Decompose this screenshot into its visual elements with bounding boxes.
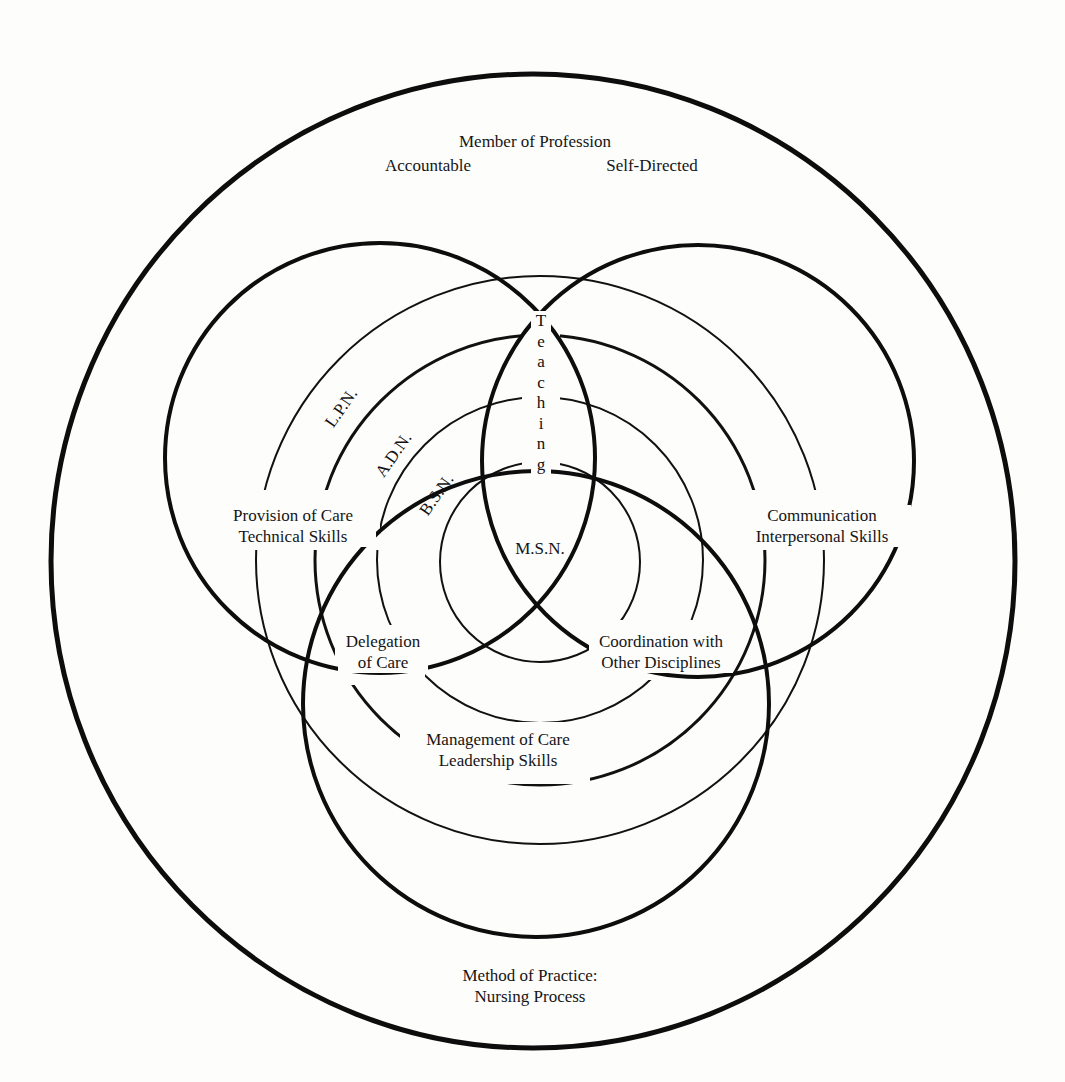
- management-of-care-label: Management of Care Leadership Skills: [415, 729, 581, 771]
- teaching-letter: h: [531, 393, 551, 414]
- method-of-practice-line2: Nursing Process: [430, 986, 630, 1007]
- provision-of-care-line1: Provision of Care: [213, 505, 373, 526]
- management-of-care-line1: Management of Care: [418, 729, 578, 750]
- delegation-line2: of Care: [341, 652, 425, 673]
- teaching-vertical-label: T e a c h i n g: [531, 311, 551, 475]
- self-directed-label: Self-Directed: [592, 155, 712, 176]
- coordination-line2: Other Disciplines: [592, 652, 730, 673]
- coordination-label: Coordination with Other Disciplines: [589, 631, 733, 673]
- delegation-line1: Delegation: [341, 631, 425, 652]
- msn-label: M.S.N.: [490, 538, 590, 559]
- communication-label: Communication Interpersonal Skills: [733, 505, 911, 547]
- member-of-profession-label: Member of Profession: [435, 131, 635, 152]
- management-of-care-line2: Leadership Skills: [418, 750, 578, 771]
- teaching-letter: i: [531, 414, 551, 435]
- teaching-letter: n: [531, 434, 551, 455]
- outer-circle: [51, 74, 1015, 1048]
- provision-of-care-line2: Technical Skills: [213, 526, 373, 547]
- method-of-practice-label: Method of Practice: Nursing Process: [430, 965, 630, 1007]
- coordination-line1: Coordination with: [592, 631, 730, 652]
- communication-line1: Communication: [736, 505, 908, 526]
- teaching-letter: c: [531, 373, 551, 394]
- delegation-of-care-label: Delegation of Care: [338, 631, 428, 673]
- teaching-letter: T: [531, 311, 551, 332]
- provision-of-care-label: Provision of Care Technical Skills: [210, 505, 376, 547]
- communication-line2: Interpersonal Skills: [736, 526, 908, 547]
- teaching-letter: e: [531, 332, 551, 353]
- accountable-label: Accountable: [368, 155, 488, 176]
- teaching-letter: a: [531, 352, 551, 373]
- teaching-letter: g: [531, 455, 551, 476]
- method-of-practice-line1: Method of Practice:: [430, 965, 630, 986]
